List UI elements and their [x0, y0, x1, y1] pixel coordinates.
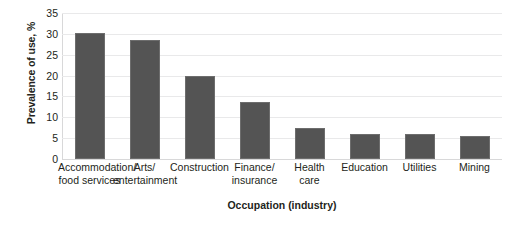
- x-tick-label: Arts/ entertainment: [113, 161, 176, 186]
- y-tick-label-10: 10: [18, 112, 58, 122]
- y-tick-label-0: 0: [18, 154, 58, 164]
- bars-layer: [62, 13, 502, 159]
- bar: [405, 134, 435, 159]
- x-axis-title: Occupation (industry): [62, 199, 502, 211]
- bar-chart: Prevalence of use, % 05101520253035 Acco…: [0, 0, 520, 227]
- y-axis-tick-labels: 05101520253035: [14, 13, 58, 159]
- x-tick-label: Education: [333, 161, 396, 174]
- x-tick-label: Health care: [278, 161, 341, 186]
- y-tick-label-30: 30: [18, 29, 58, 39]
- x-tick-label: Construction: [168, 161, 231, 174]
- y-tick-label-35: 35: [18, 8, 58, 18]
- y-tick-label-15: 15: [18, 91, 58, 101]
- bar: [460, 136, 490, 159]
- x-tick-label: Utilities: [388, 161, 451, 174]
- gridline-0: [62, 159, 502, 160]
- x-tick-label: Mining: [443, 161, 506, 174]
- x-tick-label: Accommodation/ food services: [58, 161, 121, 186]
- x-axis-category-labels: Accommodation/ food servicesArts/ entert…: [62, 161, 502, 195]
- bar: [75, 33, 105, 159]
- bar: [185, 76, 215, 159]
- y-tick-label-20: 20: [18, 71, 58, 81]
- bar: [130, 40, 160, 159]
- bar: [240, 102, 270, 159]
- y-tick-label-25: 25: [18, 50, 58, 60]
- y-tick-label-5: 5: [18, 133, 58, 143]
- bar: [295, 128, 325, 159]
- x-tick-label: Finance/ insurance: [223, 161, 286, 186]
- bar: [350, 134, 380, 159]
